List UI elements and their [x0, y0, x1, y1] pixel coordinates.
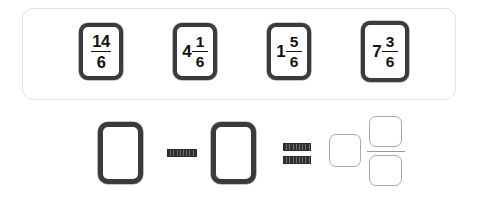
denominator: 6	[385, 54, 395, 70]
equals-operator-icon	[283, 143, 311, 164]
whole-number: 7	[372, 43, 382, 60]
minus-operator-icon	[167, 149, 197, 157]
tray-card-list: 14 6 4 1 6 1 5	[23, 9, 455, 99]
whole-number: 4	[182, 43, 192, 60]
fraction-subtraction-equation	[0, 112, 481, 198]
numerator: 14	[91, 33, 110, 50]
fraction-card-tray: 14 6 4 1 6 1 5	[22, 8, 456, 100]
equals-bar-bottom	[283, 156, 311, 164]
whole-number: 1	[276, 43, 286, 60]
answer-denominator-slot[interactable]	[369, 155, 402, 186]
fraction-card-content: 1 5 6	[276, 34, 302, 70]
denominator: 6	[195, 54, 205, 70]
fraction-3-6: 3 6	[382, 34, 398, 70]
answer-mixed-number	[329, 112, 411, 198]
numerator: 1	[195, 34, 205, 50]
numerator: 3	[385, 34, 395, 50]
fraction-card-4-1-6[interactable]: 4 1 6	[173, 23, 217, 80]
fraction-5-6: 5 6	[286, 34, 302, 70]
numerator: 5	[289, 34, 299, 50]
fraction-card-content: 14 6	[91, 33, 111, 71]
minus-bar	[167, 149, 197, 157]
answer-numerator-slot[interactable]	[369, 116, 402, 147]
fraction-1-6: 1 6	[192, 34, 208, 70]
minuend-drop-slot[interactable]	[98, 122, 143, 184]
answer-whole-slot[interactable]	[329, 134, 361, 167]
fraction-card-1-5-6[interactable]: 1 5 6	[267, 23, 311, 80]
fraction-card-content: 4 1 6	[182, 34, 208, 70]
equals-bar-top	[283, 143, 311, 151]
fraction-card-14-6[interactable]: 14 6	[79, 23, 123, 80]
denominator: 6	[96, 54, 107, 71]
subtrahend-drop-slot[interactable]	[211, 122, 256, 184]
fraction-14-6: 14 6	[91, 33, 111, 71]
denominator: 6	[289, 54, 299, 70]
fraction-card-7-3-6[interactable]: 7 3 6	[361, 21, 409, 82]
fraction-card-content: 7 3 6	[372, 34, 398, 70]
answer-fraction-bar	[367, 151, 405, 152]
